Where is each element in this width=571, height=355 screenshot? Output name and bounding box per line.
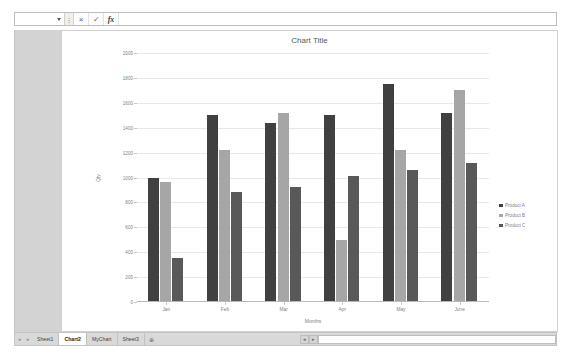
bar[interactable] xyxy=(231,192,242,302)
nav-next-sheet-icon[interactable]: ◂ xyxy=(26,336,29,342)
insert-function-icon[interactable]: fx xyxy=(104,13,119,25)
bar-group: May xyxy=(383,53,419,302)
chart-title[interactable]: Chart Title xyxy=(62,36,557,45)
bar[interactable] xyxy=(219,150,230,302)
x-tick-label: Feb xyxy=(207,307,243,312)
x-tick-mark xyxy=(342,302,343,305)
cancel-formula-icon[interactable]: × xyxy=(74,13,89,25)
x-tick-label: Jan xyxy=(148,307,184,312)
x-tick-label: May xyxy=(383,307,419,312)
x-axis-title[interactable]: Months xyxy=(137,318,489,324)
bar-group: Feb xyxy=(207,53,243,302)
bar-group: Apr xyxy=(324,53,360,302)
nav-prev-sheet-icon[interactable]: ◂ xyxy=(18,336,21,342)
add-sheet-button[interactable]: ⊕ xyxy=(145,333,158,345)
bar[interactable] xyxy=(148,178,159,303)
y-tick-label: 2000 xyxy=(123,51,133,56)
bar[interactable] xyxy=(172,258,183,302)
plot-frame: 0200400600800100012001400160018002000 Ja… xyxy=(137,53,489,302)
chart-legend[interactable]: Product AProduct BProduct C xyxy=(499,203,555,233)
sheet-nav-arrows[interactable]: ◂ ◂ xyxy=(15,333,32,345)
bar[interactable] xyxy=(278,113,289,302)
bar-group: Mar xyxy=(265,53,301,302)
y-axis-title[interactable]: Qty xyxy=(96,174,101,181)
bar[interactable] xyxy=(290,187,301,302)
x-axis-line xyxy=(137,301,489,302)
sheet-tab-sheet3[interactable]: Sheet3 xyxy=(118,333,145,345)
x-tick-mark xyxy=(284,302,285,305)
bar[interactable] xyxy=(336,240,347,302)
sheet-tab-sheet1[interactable]: Sheet1 xyxy=(32,333,59,345)
bar[interactable] xyxy=(407,170,418,302)
bar-group: Jan xyxy=(148,53,184,302)
y-tick-label: 1200 xyxy=(123,150,133,155)
bar[interactable] xyxy=(324,115,335,302)
legend-swatch xyxy=(499,224,503,228)
x-tick-mark xyxy=(401,302,402,305)
scroll-left-icon[interactable]: ◂ xyxy=(300,335,309,344)
x-tick-label: June xyxy=(441,307,477,312)
bar[interactable] xyxy=(383,84,394,302)
y-tick-label: 800 xyxy=(125,200,133,205)
formula-bar: ⋮ × ✓ fx xyxy=(14,12,557,26)
chevron-down-icon[interactable] xyxy=(57,18,61,21)
bar[interactable] xyxy=(348,176,359,302)
y-tick-label: 1600 xyxy=(123,100,133,105)
y-tick-label: 1800 xyxy=(123,75,133,80)
y-tick-label: 400 xyxy=(125,250,133,255)
legend-label: Product B xyxy=(505,213,525,218)
x-tick-mark xyxy=(460,302,461,305)
confirm-formula-icon[interactable]: ✓ xyxy=(89,13,104,25)
sheet-tab-list: Sheet1Chart2MyChartSheet3 xyxy=(32,333,145,345)
legend-swatch xyxy=(499,204,503,208)
x-tick-mark xyxy=(225,302,226,305)
legend-label: Product A xyxy=(505,203,525,208)
bar[interactable] xyxy=(395,150,406,302)
worksheet-canvas: Chart Title 0200400600800100012001400160… xyxy=(14,30,557,332)
y-tick-label: 200 xyxy=(125,275,133,280)
legend-swatch xyxy=(499,214,503,218)
x-tick-label: Mar xyxy=(265,307,301,312)
y-tick-label: 1000 xyxy=(123,175,133,180)
sheet-tab-chart2[interactable]: Chart2 xyxy=(59,333,86,345)
x-tick-mark xyxy=(166,302,167,305)
bar[interactable] xyxy=(160,182,171,302)
bar[interactable] xyxy=(207,115,218,302)
bar[interactable] xyxy=(441,113,452,302)
bars-layer: JanFebMarAprMayJune xyxy=(137,53,489,302)
horizontal-scrollbar[interactable]: ◂ ▸ xyxy=(300,334,556,344)
scroll-right-icon[interactable]: ▸ xyxy=(309,335,318,344)
legend-item[interactable]: Product A xyxy=(499,203,555,208)
bar[interactable] xyxy=(454,90,465,302)
chart-object[interactable]: Chart Title 0200400600800100012001400160… xyxy=(61,30,558,332)
y-tick-label: 0 xyxy=(130,300,133,305)
name-box-divider: ⋮ xyxy=(65,13,74,25)
name-box[interactable] xyxy=(15,13,65,25)
legend-item[interactable]: Product C xyxy=(499,223,555,228)
x-tick-label: Apr xyxy=(324,307,360,312)
bar[interactable] xyxy=(466,163,477,302)
bar-group: June xyxy=(441,53,477,302)
legend-item[interactable]: Product B xyxy=(499,213,555,218)
legend-label: Product C xyxy=(505,223,525,228)
formula-input[interactable] xyxy=(119,13,556,25)
y-tick-label: 600 xyxy=(125,225,133,230)
scrollbar-track[interactable] xyxy=(318,335,556,344)
bar[interactable] xyxy=(265,123,276,302)
y-tick-mark xyxy=(134,302,137,303)
y-tick-label: 1400 xyxy=(123,125,133,130)
sheet-tab-mychart[interactable]: MyChart xyxy=(87,333,118,345)
